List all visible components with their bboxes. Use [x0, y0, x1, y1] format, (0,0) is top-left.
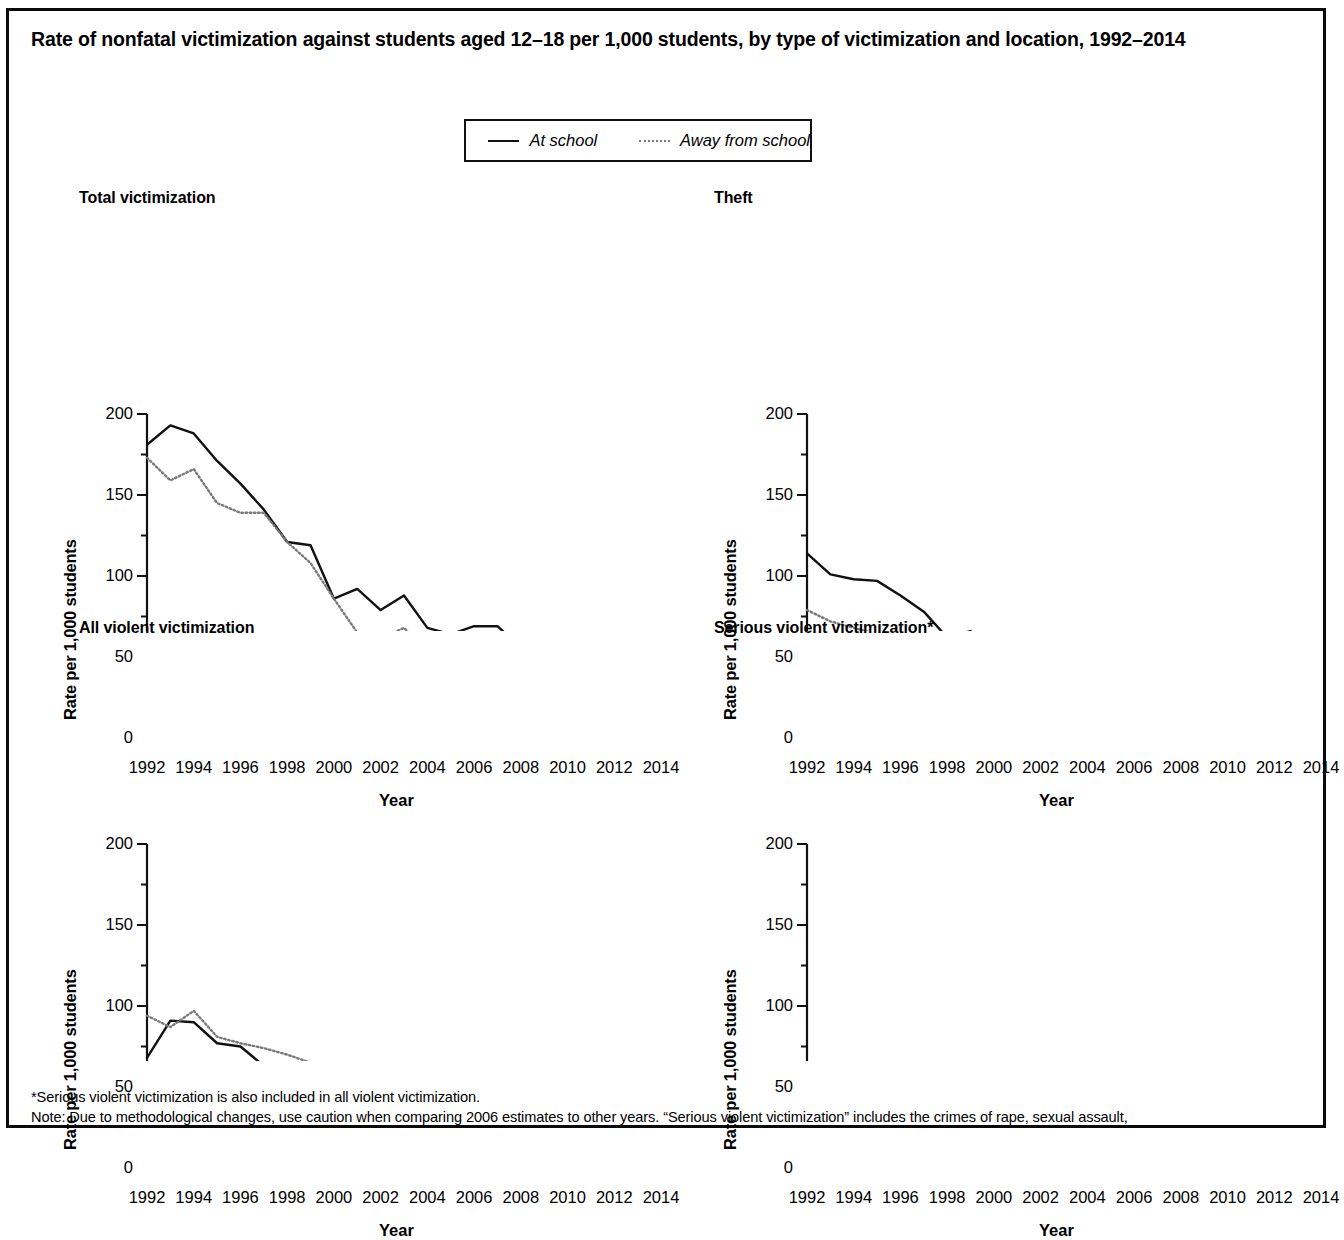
series-line-at-school [147, 425, 661, 631]
x-tick-label-2014: 2014 [636, 1188, 686, 1207]
plot-area-all-violent-victimization [39, 611, 699, 1061]
y-tick-label-0: 0 [85, 1158, 133, 1177]
x-tick-label-2004: 2004 [402, 1188, 452, 1207]
footnote-note: Note: Due to methodological changes, use… [31, 1108, 1321, 1128]
chart-legend: At school Away from school [464, 119, 812, 162]
series-line-away-from-school [147, 1011, 661, 1061]
x-tick-label-2004: 2004 [1062, 1188, 1112, 1207]
legend-label-away-from-school: Away from school [680, 131, 810, 150]
legend-line-at-school-icon [488, 140, 519, 142]
x-tick-label-2006: 2006 [449, 1188, 499, 1207]
panel-total-victimization: Total victimizationRate per 1,000 studen… [39, 181, 699, 631]
x-tick-label-1994: 1994 [829, 1188, 879, 1207]
legend-label-at-school: At school [529, 131, 597, 150]
figure-frame: Rate of nonfatal victimization against s… [6, 8, 1326, 1128]
x-tick-label-2006: 2006 [1109, 1188, 1159, 1207]
footnote-asterisk: *Serious violent victimization is also i… [31, 1088, 1321, 1108]
panel-serious-violent-victimization: Serious violent victimization*Rate per 1… [699, 611, 1344, 1061]
panel-all-violent-victimization: All violent victimizationRate per 1,000 … [39, 611, 699, 1061]
series-line-at-school [147, 1021, 661, 1061]
x-tick-label-2010: 2010 [1203, 1188, 1253, 1207]
series-line-away-from-school [147, 458, 661, 631]
x-tick-label-1996: 1996 [875, 1188, 925, 1207]
x-tick-label-2014: 2014 [1296, 1188, 1344, 1207]
figure-title: Rate of nonfatal victimization against s… [31, 29, 1291, 50]
x-axis-title: Year [1039, 1221, 1074, 1240]
x-tick-label-2008: 2008 [496, 1188, 546, 1207]
x-tick-label-1992: 1992 [782, 1188, 832, 1207]
x-tick-label-2012: 2012 [589, 1188, 639, 1207]
x-tick-label-2008: 2008 [1156, 1188, 1206, 1207]
plot-area-total-victimization [39, 181, 699, 631]
x-tick-label-2002: 2002 [1016, 1188, 1066, 1207]
plot-area-theft [699, 181, 1344, 631]
x-tick-label-2000: 2000 [309, 1188, 359, 1207]
y-tick-label-0: 0 [745, 1158, 793, 1177]
x-tick-label-2012: 2012 [1249, 1188, 1299, 1207]
x-tick-label-2000: 2000 [969, 1188, 1019, 1207]
x-tick-label-2002: 2002 [356, 1188, 406, 1207]
footnotes: *Serious violent victimization is also i… [31, 1088, 1321, 1127]
x-axis-title: Year [379, 1221, 414, 1240]
legend-line-away-from-school-icon [639, 140, 670, 142]
panel-theft: TheftRate per 1,000 studentsYear05010015… [699, 181, 1344, 631]
x-tick-label-1994: 1994 [169, 1188, 219, 1207]
x-tick-label-2010: 2010 [543, 1188, 593, 1207]
plot-area-serious-violent-victimization [699, 611, 1344, 1061]
x-tick-label-1996: 1996 [215, 1188, 265, 1207]
x-tick-label-1992: 1992 [122, 1188, 172, 1207]
x-tick-label-1998: 1998 [262, 1188, 312, 1207]
x-tick-label-1998: 1998 [922, 1188, 972, 1207]
